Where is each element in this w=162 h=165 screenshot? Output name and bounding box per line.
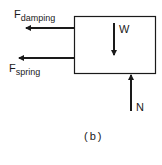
weight-label: W xyxy=(119,24,129,35)
normal-label: N xyxy=(136,102,144,113)
spring-force-label: Fspring xyxy=(9,63,40,77)
free-body-diagram xyxy=(0,0,162,165)
caption: (b) xyxy=(84,131,103,142)
damping-force-label: Fdamping xyxy=(14,9,55,23)
